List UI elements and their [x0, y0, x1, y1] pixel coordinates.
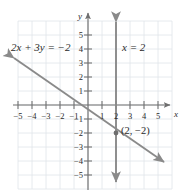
- line-2x-plus-3y-equals-neg2: [14, 58, 164, 162]
- line-equation-label: 2x + 3y = −2: [11, 42, 71, 53]
- coordinate-plane-graph: [0, 0, 186, 193]
- vertical-line-equation-label: x = 2: [122, 42, 145, 53]
- x-tick-label: 2: [110, 112, 122, 121]
- y-tick-label: −2: [67, 129, 83, 138]
- y-tick-label: 2: [71, 73, 83, 82]
- y-tick-label: −4: [67, 157, 83, 166]
- x-tick-label: 1: [96, 112, 108, 121]
- y-tick-label: 4: [71, 45, 83, 54]
- y-tick-label: −1: [67, 115, 83, 124]
- x-tick-label: 4: [138, 112, 150, 121]
- graph-screenshot: 2x + 3y = −2 x = 2 (2, −2) x y −5 −4 −3 …: [0, 0, 186, 193]
- y-axis-name-label: y: [78, 12, 82, 21]
- x-tick-label: 3: [124, 112, 136, 121]
- y-tick-label: 5: [71, 31, 83, 40]
- x-axis-name-label: x: [174, 110, 178, 119]
- intersection-point-label: (2, −2): [121, 126, 150, 137]
- axes: [13, 13, 170, 190]
- intersection-point-marker: [114, 131, 119, 136]
- y-tick-label: 3: [71, 59, 83, 68]
- y-tick-label: −3: [67, 143, 83, 152]
- y-tick-label: 1: [71, 87, 83, 96]
- x-tick-label: 5: [152, 112, 164, 121]
- y-tick-label: −5: [67, 171, 83, 180]
